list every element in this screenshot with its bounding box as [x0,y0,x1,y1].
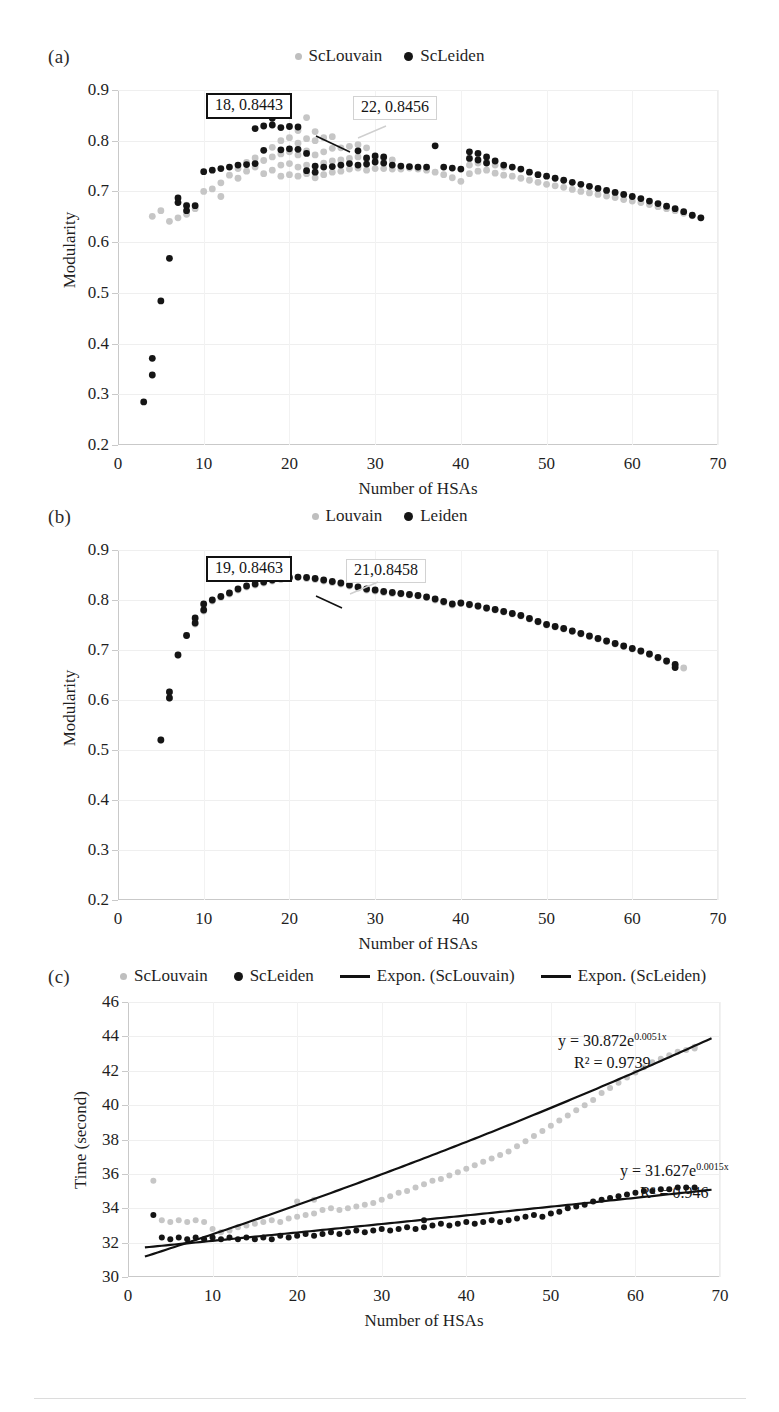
x-axis-tick-label: 0 [114,454,123,474]
equation-text: y = 31.627e [620,1162,696,1179]
annotation-callout-peak-leiden: 18, 0.8443 [206,93,292,119]
y-axis-tick-label: 40 [102,1095,119,1115]
x-axis-tick-label: 10 [195,909,212,929]
x-axis-tick-label: 30 [373,1286,390,1306]
panel-a: (a) ScLouvain ScLeiden 0.20.30.40.50.60.… [0,40,779,510]
dark-dot-icon [234,972,243,981]
legend-label: Expon. (ScLeiden) [578,966,706,986]
y-axis-tick-mark [122,1243,128,1244]
x-axis-title: Number of HSAs [365,1311,484,1331]
trendline-icon [340,975,370,978]
y-axis-tick-label: 0.4 [88,790,109,810]
y-axis-tick-label: 0.8 [88,131,109,151]
gridline-vertical [720,1002,721,1277]
legend-label: ScLouvain [309,46,383,66]
y-axis-tick-mark [112,242,118,243]
trendline-equation-sclouvain: y = 30.872e0.0051x R² = 0.9739 [558,1030,667,1074]
y-axis-tick-label: 0.8 [88,590,109,610]
trendline-equation-scleiden: y = 31.627e0.0015x R² = 0.946 [620,1160,729,1204]
y-axis-tick-mark [112,850,118,851]
x-axis-tick-label: 50 [538,909,555,929]
legend-label: ScLeiden [420,46,484,66]
y-axis-tick-label: 36 [102,1164,119,1184]
legend-item-scleiden: ScLeiden [234,966,314,986]
x-axis-tick-label: 0 [124,1286,133,1306]
y-axis-tick-label: 32 [102,1233,119,1253]
panel-c: (c) ScLouvain ScLeiden Expon. (ScLouvain… [0,960,779,1360]
y-axis-tick-label: 0.6 [88,232,109,252]
x-axis-tick-label: 20 [281,454,298,474]
y-axis-title: Time (second) [71,1090,91,1188]
x-axis-tick-label: 60 [627,1286,644,1306]
light-dot-icon [312,513,319,520]
page-footer-rule [34,1398,746,1399]
y-axis-tick-label: 38 [102,1130,119,1150]
dark-dot-icon [404,52,413,61]
y-axis-tick-mark [112,141,118,142]
dark-dot-icon [404,512,413,521]
y-axis-title: Modularity [60,212,80,289]
gridline-vertical [718,550,719,900]
y-axis-tick-label: 0.4 [88,334,109,354]
light-dot-icon [120,973,127,980]
y-axis-tick-mark [112,750,118,751]
y-axis-tick-label: 0.5 [88,740,109,760]
equation-exponent: 0.0015x [696,1161,729,1172]
y-axis-tick-mark [122,1208,128,1209]
y-axis-tick-label: 34 [102,1198,119,1218]
panel-b-legend: Louvain Leiden [0,506,779,526]
y-axis-tick-mark [112,800,118,801]
x-axis-tick-label: 0 [114,909,123,929]
x-axis-tick-label: 30 [367,454,384,474]
y-axis-tick-mark [122,1105,128,1106]
y-axis-tick-label: 42 [102,1061,119,1081]
series-scleiden [150,1185,697,1243]
legend-item-sclouvain: ScLouvain [120,966,208,986]
y-axis-tick-label: 0.2 [88,890,109,910]
y-axis-tick-mark [112,293,118,294]
y-axis-title: Modularity [60,669,80,746]
y-axis-tick-label: 44 [102,1026,119,1046]
legend-label: Louvain [326,506,383,526]
panel-c-legend: ScLouvain ScLeiden Expon. (ScLouvain) Ex… [0,966,779,986]
series-louvain [157,574,687,744]
panel-b: (b) Louvain Leiden 0.20.30.40.50.60.70.8… [0,500,779,965]
x-axis-tick-label: 60 [624,454,641,474]
equation-r2: R² = 0.946 [620,1182,729,1204]
y-axis-tick-label: 30 [102,1267,119,1287]
y-axis-tick-mark [112,900,118,901]
panel-a-legend: ScLouvain ScLeiden [0,46,779,66]
y-axis-tick-mark [112,90,118,91]
y-axis-tick-label: 0.3 [88,384,109,404]
y-axis-tick-mark [112,191,118,192]
y-axis-tick-label: 0.7 [88,181,109,201]
legend-label: Expon. (ScLouvain) [377,966,515,986]
x-axis-tick-label: 60 [624,909,641,929]
x-axis-tick-label: 50 [538,454,555,474]
annotation-callout-peak-louvain: 21,0.8458 [346,559,426,583]
x-axis-tick-label: 10 [204,1286,221,1306]
x-axis-tick-label: 10 [195,454,212,474]
x-axis-tick-label: 40 [452,454,469,474]
x-axis-tick-label: 30 [367,909,384,929]
x-axis-title: Number of HSAs [359,479,478,499]
y-axis-tick-mark [122,1002,128,1003]
x-axis-tick-label: 40 [452,909,469,929]
y-axis-tick-mark [122,1277,128,1278]
y-axis-tick-mark [122,1036,128,1037]
y-axis-tick-mark [112,650,118,651]
y-axis-tick-label: 0.2 [88,435,109,455]
y-axis-tick-mark [112,394,118,395]
x-axis-tick-label: 20 [289,1286,306,1306]
equation-exponent: 0.0051x [634,1031,667,1042]
series-scleiden [140,115,704,405]
legend-item-sclouvain: ScLouvain [295,46,383,66]
legend-item-scleiden: ScLeiden [404,46,484,66]
legend-label: ScLeiden [250,966,314,986]
annotation-callout-peak-louvain: 22, 0.8456 [353,96,437,120]
y-axis-tick-label: 0.7 [88,640,109,660]
y-axis-tick-mark [112,700,118,701]
y-axis-tick-mark [122,1071,128,1072]
legend-label: ScLouvain [134,966,208,986]
y-axis-tick-label: 0.9 [88,80,109,100]
